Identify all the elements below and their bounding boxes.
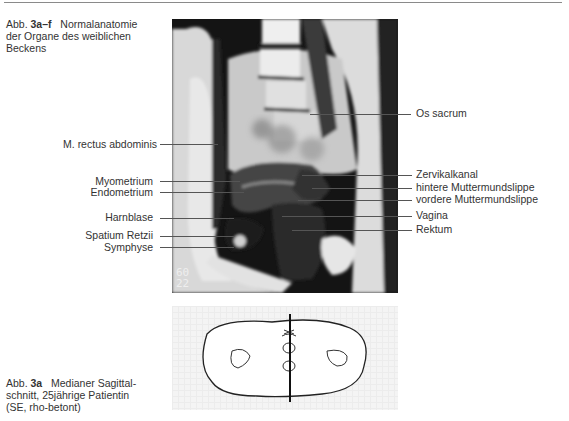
leader-line bbox=[160, 144, 218, 145]
label-endometrium: Endometrium bbox=[91, 186, 153, 198]
leader-line bbox=[160, 192, 244, 193]
leader-line bbox=[160, 218, 234, 219]
label-os-sacrum: Os sacrum bbox=[416, 107, 467, 119]
caption-line: schnitt, 25jährige Patientin bbox=[6, 389, 166, 401]
leader-line bbox=[310, 114, 411, 115]
label-rektum: Rektum bbox=[416, 223, 452, 235]
label-zervikalkanal: Zervikalkanal bbox=[416, 168, 478, 180]
label-hintere-muttermundslippe: hintere Muttermundslippe bbox=[416, 181, 534, 193]
figure-number: 3a–f bbox=[31, 18, 52, 30]
label-vordere-muttermundslippe: vordere Muttermundslippe bbox=[416, 193, 538, 205]
scan-number-line: 22 bbox=[176, 278, 189, 289]
label-spatium-retzii: Spatium Retzii bbox=[85, 229, 153, 241]
label-m-rectus-abdominis: M. rectus abdominis bbox=[63, 138, 157, 150]
leader-line bbox=[312, 188, 412, 189]
label-harnblase: Harnblase bbox=[105, 211, 153, 223]
leader-line bbox=[160, 247, 234, 248]
figure-number: 3a bbox=[31, 377, 43, 389]
figure-caption-bottom: Abb. 3a Medianer Sagittal- schnitt, 25jä… bbox=[6, 377, 166, 413]
figure-caption-top: Abb. 3a–f Normalanatomie der Organe des … bbox=[6, 18, 166, 54]
leader-line bbox=[302, 175, 412, 176]
header-rule bbox=[4, 2, 562, 3]
caption-title: Medianer Sagittal- bbox=[51, 377, 136, 389]
leader-line bbox=[160, 236, 234, 237]
mri-illustration bbox=[172, 19, 398, 293]
leader-line bbox=[298, 200, 412, 201]
pelvis-outline-icon bbox=[172, 306, 398, 410]
mri-sagittal-image: 60 22 bbox=[172, 19, 398, 293]
slice-orientation-diagram bbox=[172, 306, 398, 410]
label-vagina: Vagina bbox=[416, 209, 448, 221]
caption-line: (SE, rho-betont) bbox=[6, 401, 166, 413]
caption-prefix: Abb. bbox=[6, 377, 28, 389]
caption-line: Beckens bbox=[6, 42, 166, 54]
caption-prefix: Abb. bbox=[6, 18, 28, 30]
leader-line bbox=[292, 230, 412, 231]
caption-line: der Organe des weiblichen bbox=[6, 30, 166, 42]
leader-line bbox=[160, 181, 240, 182]
label-symphyse: Symphyse bbox=[104, 241, 153, 253]
caption-title: Normalanatomie bbox=[60, 18, 137, 30]
leader-line bbox=[282, 216, 412, 217]
scan-number: 60 22 bbox=[176, 267, 189, 289]
